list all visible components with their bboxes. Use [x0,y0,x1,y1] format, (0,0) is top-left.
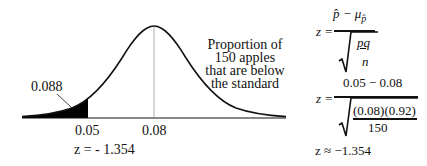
substituted-numerator: 0.05 − 0.08 [343,75,402,91]
general-formula-numerator: p̂ − μp̂ [333,6,366,24]
substituted-denominator-denominator: 150 [368,120,388,136]
tick-label-0.05: 0.05 [75,123,100,139]
tail-area-label: 0.088 [31,79,63,95]
general-denominator-denominator: n [362,54,369,70]
z-score-text: z = - 1.354 [74,142,135,157]
general-numerator-subscript: p̂ [361,13,366,24]
general-numerator-text: p̂ − μ [333,6,361,21]
substituted-formula-lhs: z = [316,91,333,107]
general-denominator-numerator: pq [357,35,370,51]
tick-label-0.08: 0.08 [142,123,167,139]
curve-description: Proportion of 150 apples that are below … [204,38,286,90]
shaded-tail-region [22,98,88,118]
description-line-4: the standard [204,77,286,90]
z-result: z ≈ −1.354 [315,143,371,159]
z-score-label: z = - 1.354 [74,142,135,158]
tail-pointer-line [57,94,72,108]
general-formula-lhs: z = [316,24,333,40]
substituted-denominator-numerator: (0.08)(0.92) [353,103,416,119]
